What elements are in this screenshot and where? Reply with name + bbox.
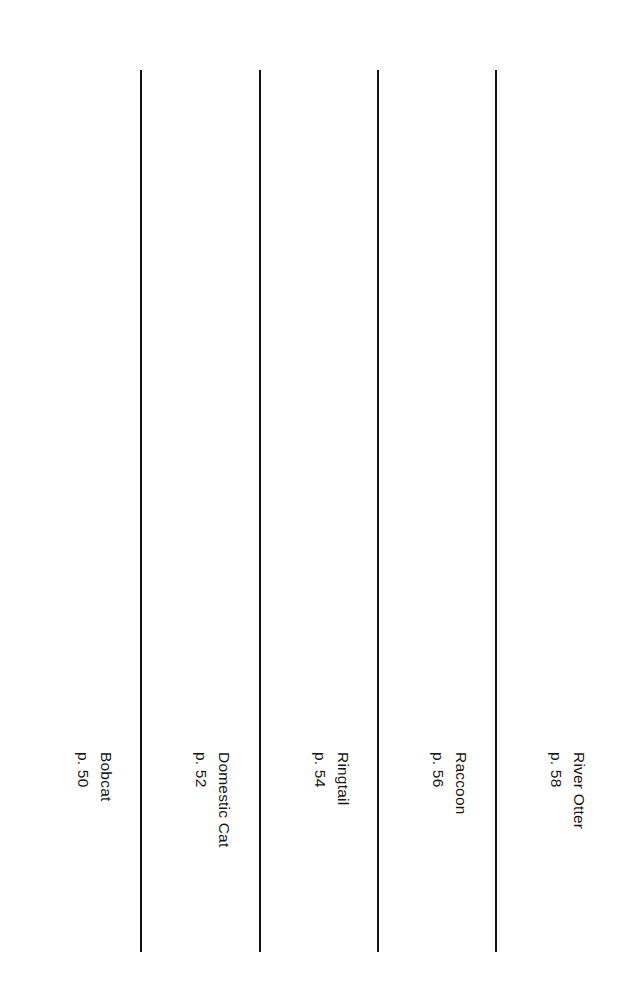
trail-track bbox=[179, 607, 229, 656]
species-page-label: p. 50 bbox=[74, 752, 92, 787]
trail-track bbox=[535, 633, 613, 699]
species-name-label: Domestic Cat bbox=[215, 752, 233, 847]
trail-track bbox=[492, 500, 578, 575]
column-divider-2 bbox=[259, 70, 261, 952]
trail-track bbox=[540, 230, 620, 300]
trail-track bbox=[415, 180, 502, 269]
trail-track bbox=[264, 639, 330, 701]
trail-track bbox=[317, 555, 383, 617]
trail-track bbox=[406, 609, 513, 720]
trail-track bbox=[156, 685, 206, 734]
trail-track bbox=[262, 180, 330, 244]
species-name-label: Raccoon bbox=[452, 752, 470, 815]
trail-track bbox=[160, 481, 211, 532]
specimen-print bbox=[169, 80, 236, 146]
specimen-print bbox=[399, 74, 472, 149]
trail-track bbox=[542, 419, 622, 489]
trail-track bbox=[196, 329, 247, 380]
trail-track bbox=[312, 317, 379, 380]
column-divider-4 bbox=[495, 70, 497, 952]
trail-track bbox=[173, 186, 225, 237]
specimen-print bbox=[515, 72, 595, 138]
trail-track bbox=[156, 455, 208, 507]
trail-track bbox=[76, 284, 149, 357]
trail-track bbox=[484, 331, 572, 408]
trail-track bbox=[355, 168, 459, 276]
species-name-label: Ringtail bbox=[334, 752, 352, 805]
trail-track bbox=[496, 205, 576, 275]
trail-track bbox=[509, 581, 591, 651]
column-divider-1 bbox=[140, 70, 142, 952]
species-page-label: p. 52 bbox=[192, 752, 210, 787]
species-page-label: p. 54 bbox=[311, 752, 329, 787]
column-divider-3 bbox=[377, 70, 379, 952]
species-name-label: Bobcat bbox=[97, 752, 115, 801]
species-page-label: p. 58 bbox=[547, 752, 565, 787]
tail-drag-mark bbox=[543, 215, 556, 725]
trail-track bbox=[355, 461, 462, 571]
trail-track bbox=[69, 525, 140, 595]
trail-track bbox=[27, 407, 98, 477]
tracks-plate: Bobcat p. 50 Domestic Cat p. 52 Ringtail… bbox=[0, 0, 628, 998]
trail-track bbox=[532, 256, 611, 323]
trail-track bbox=[367, 625, 452, 712]
trail-track bbox=[24, 641, 94, 710]
trail-track bbox=[259, 444, 326, 507]
trail-track bbox=[530, 529, 609, 596]
trail-track bbox=[176, 210, 227, 260]
trail-track bbox=[198, 353, 250, 404]
species-page-label: p. 56 bbox=[429, 752, 447, 787]
trail-track bbox=[416, 478, 501, 565]
species-name-label: River Otter bbox=[570, 752, 588, 829]
trail-track bbox=[518, 169, 609, 249]
trail-track bbox=[517, 384, 599, 454]
trail-track bbox=[26, 182, 98, 253]
specimen-print bbox=[43, 77, 116, 149]
specimen-print bbox=[285, 81, 354, 145]
